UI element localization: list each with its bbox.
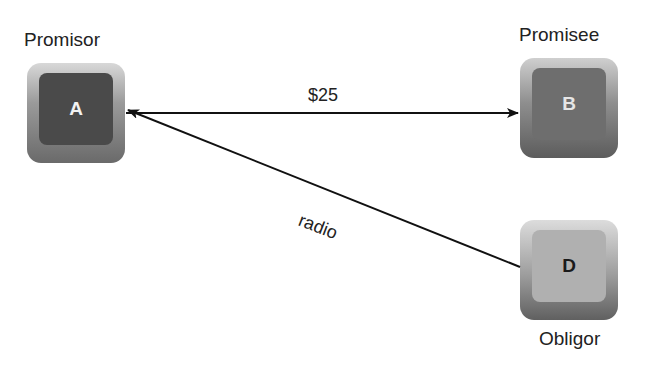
edge-label-money: $25: [308, 85, 338, 106]
edges-layer: [0, 0, 648, 382]
edge-d-to-a: [128, 110, 520, 267]
